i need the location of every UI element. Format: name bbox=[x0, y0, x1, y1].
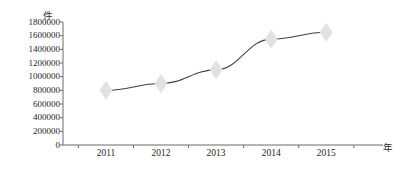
data-point-marker bbox=[320, 23, 333, 42]
data-point-marker bbox=[265, 30, 278, 49]
data-point-marker bbox=[155, 74, 168, 93]
plot-area bbox=[0, 0, 404, 170]
data-point-marker bbox=[99, 81, 112, 100]
line-chart: 件 年 180000016000001400000120000010000008… bbox=[0, 0, 404, 170]
data-point-marker bbox=[210, 60, 223, 79]
data-point-markers bbox=[99, 23, 332, 100]
